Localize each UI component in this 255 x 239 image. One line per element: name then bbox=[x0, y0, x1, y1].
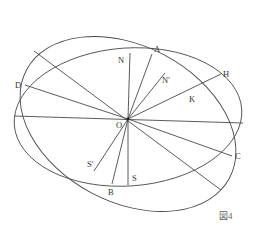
line-OD bbox=[25, 85, 128, 119]
figure-caption: 図4 bbox=[219, 211, 233, 221]
line-ON bbox=[128, 53, 130, 119]
label-O: O bbox=[116, 120, 122, 130]
label-H: H bbox=[223, 69, 229, 79]
label-D: D bbox=[15, 80, 21, 90]
label-N: N bbox=[118, 55, 124, 65]
label-S-prime: S' bbox=[87, 159, 94, 169]
center-point-O bbox=[127, 118, 130, 121]
label-S: S bbox=[132, 173, 137, 183]
label-N-prime: N' bbox=[162, 75, 170, 85]
label-A: A bbox=[154, 44, 161, 54]
label-K: K bbox=[189, 94, 196, 104]
line-OC bbox=[128, 119, 232, 156]
line-ON-prime bbox=[128, 73, 165, 119]
line-OS-prime bbox=[94, 119, 128, 171]
label-C: C bbox=[235, 151, 241, 161]
ellipse-diagram: A N N' H K D O C B S S' 図4 bbox=[0, 0, 255, 239]
label-B: B bbox=[108, 187, 114, 197]
